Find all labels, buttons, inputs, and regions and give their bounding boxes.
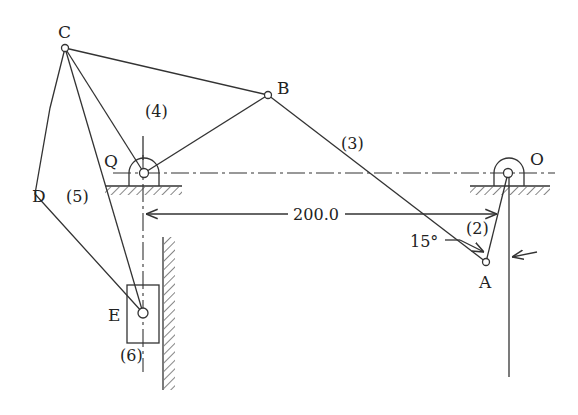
label-link-5: (5) [66, 187, 89, 206]
pin-c [62, 45, 69, 52]
label-link-3: (3) [341, 134, 364, 153]
dimension-200: 200.0 [146, 205, 497, 224]
ground-q [105, 186, 182, 195]
pin-e [138, 308, 148, 318]
label-link-2: (2) [466, 219, 489, 238]
bearing-q [129, 136, 159, 186]
label-o: O [530, 149, 544, 169]
label-e: E [108, 305, 120, 325]
label-d: D [32, 186, 46, 206]
link-cde [35, 48, 143, 313]
pin-a [483, 259, 490, 266]
label-c: C [58, 22, 71, 42]
pin-b [265, 92, 272, 99]
pin-q [140, 169, 149, 178]
label-link-6: (6) [120, 346, 143, 365]
ground-o [470, 186, 550, 195]
dimension-label: 200.0 [293, 205, 339, 224]
pin-o [504, 169, 513, 178]
slider-wall [163, 237, 175, 390]
link-3-ba [268, 95, 486, 262]
label-b: B [277, 78, 290, 98]
link-cb [65, 48, 268, 95]
angle-label: 15° [410, 232, 438, 251]
linkage-diagram: 200.0 15° C B Q O A D E (4) (3) (2) (5) … [0, 0, 578, 415]
label-q: Q [104, 151, 118, 171]
link-ce [65, 48, 143, 313]
label-a: A [478, 272, 492, 292]
input-arrow [512, 252, 537, 257]
label-link-4: (4) [145, 102, 168, 121]
